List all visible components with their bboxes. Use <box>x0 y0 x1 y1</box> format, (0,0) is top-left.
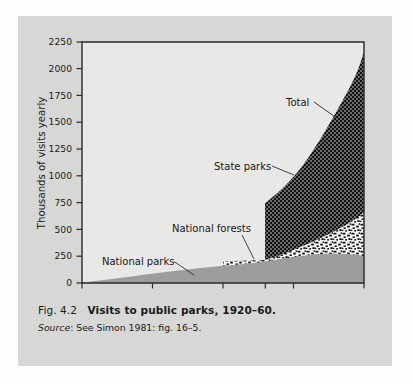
annotation-label: National forests <box>172 223 251 234</box>
annotation-label: Total <box>285 97 309 108</box>
chart-svg: 0 250 500 750 1000 1250 1500 1750 2000 2… <box>18 16 392 292</box>
x-tick-label: 1960 <box>350 290 374 293</box>
y-tick-labels: 0 250 500 750 1000 1250 1500 1750 2000 2… <box>49 36 73 288</box>
figure-caption: Fig. 4.2 Visits to public parks, 1920–60… <box>38 304 378 333</box>
y-tick-label: 2250 <box>49 36 73 47</box>
y-tick-label: 0 <box>66 277 72 288</box>
source-text: : See Simon 1981: fig. 16–5. <box>70 322 201 333</box>
x-tick-label: 1950 <box>284 290 308 293</box>
caption-title: Visits to public parks, 1920–60. <box>87 304 276 316</box>
y-tick-label: 1000 <box>49 170 73 181</box>
caption-figure-number: Fig. 4.2 <box>38 304 77 316</box>
caption-line-source: Source: See Simon 1981: fig. 16–5. <box>38 322 378 333</box>
y-tick-label: 250 <box>54 250 72 261</box>
y-tick-label: 1750 <box>49 90 73 101</box>
annotation-label: National parks <box>102 256 174 267</box>
y-axis-ticks <box>77 42 83 283</box>
x-tick-label: 1940 <box>211 290 235 293</box>
figure-card: 0 250 500 750 1000 1250 1500 1750 2000 2… <box>18 16 392 366</box>
chart-plot: 0 250 500 750 1000 1250 1500 1750 2000 2… <box>18 16 392 292</box>
annotation-label: State parks <box>214 161 271 172</box>
x-axis-ticks <box>82 283 364 289</box>
caption-line-main: Fig. 4.2 Visits to public parks, 1920–60… <box>38 304 378 316</box>
x-tick-label: 1930 <box>141 290 165 293</box>
y-tick-label: 1500 <box>49 116 73 127</box>
y-tick-label: 1250 <box>49 143 73 154</box>
y-tick-label: 500 <box>54 224 72 235</box>
source-label: Source <box>38 322 70 333</box>
x-tick-labels: 1920 1930 1940 1946 1950 1960 <box>70 290 374 293</box>
x-tick-label: 1920 <box>70 290 94 293</box>
y-axis-title: Thousands of visits yearly <box>36 97 47 231</box>
y-tick-label: 750 <box>54 197 72 208</box>
y-tick-label: 2000 <box>49 63 73 74</box>
x-tick-label: 1946 <box>254 290 278 293</box>
